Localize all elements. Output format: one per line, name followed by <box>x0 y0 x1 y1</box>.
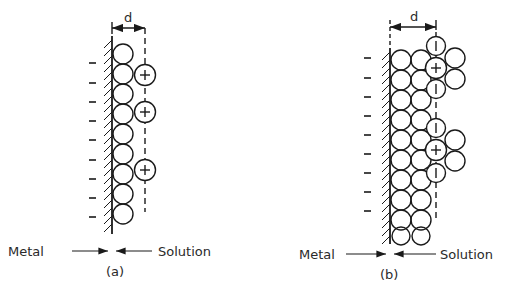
metal-surface-b <box>382 48 390 244</box>
panel-a: d <box>72 10 156 251</box>
anion-icon <box>427 37 446 56</box>
cation-icon <box>135 102 156 123</box>
dimension-d-a: d <box>112 10 145 34</box>
solution-label-a: Solution <box>158 244 211 259</box>
dimension-label: d <box>124 10 132 25</box>
cation-icon <box>426 58 447 79</box>
electric-double-layer-diagram: d <box>0 0 518 299</box>
metal-label-a: Metal <box>8 244 44 259</box>
dimension-label: d <box>410 9 418 24</box>
anion-icon <box>427 164 446 183</box>
panel-b: d <box>346 9 465 254</box>
metal-surface-a <box>104 36 112 234</box>
cations-a <box>135 65 156 181</box>
solution-label-b: Solution <box>440 247 493 262</box>
solvent-layer-a <box>113 44 133 224</box>
metal-label-b: Metal <box>299 247 335 262</box>
cation-icon <box>135 65 156 86</box>
metal-negative-charges-a <box>89 63 96 217</box>
caption-b: (b) <box>380 267 398 282</box>
anion-icon <box>427 80 446 99</box>
caption-a: (a) <box>106 264 124 279</box>
solvent-layer-b <box>391 50 431 245</box>
cation-icon <box>426 140 447 161</box>
hydration-shell-b <box>445 48 465 171</box>
cations-b <box>426 58 447 161</box>
anion-icon <box>427 119 446 138</box>
metal-negative-charges-b <box>364 58 371 211</box>
cation-icon <box>135 160 156 181</box>
